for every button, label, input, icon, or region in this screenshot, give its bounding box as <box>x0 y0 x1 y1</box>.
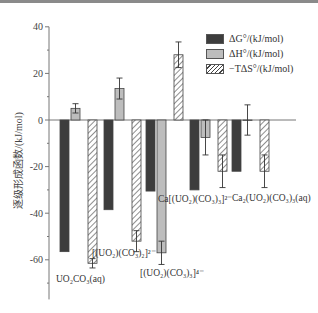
svg-text:-40: -40 <box>30 208 43 219</box>
bar-0-1 <box>104 120 113 210</box>
category-label-0: UO₂CO₃(aq) <box>56 274 105 284</box>
category-label-3: Ca[(UO₂)(CO₃)₃]²⁻ <box>158 193 232 204</box>
svg-text:-60: -60 <box>30 254 43 265</box>
legend-label: ΔG°/(kJ/mol) <box>229 33 283 44</box>
legend-label: ΔH°/(kJ/mol) <box>229 48 283 59</box>
bar-0-3 <box>190 120 199 190</box>
bar-0-0 <box>60 120 69 252</box>
svg-text:-20: -20 <box>30 161 43 172</box>
legend-item-dh: ΔH°/(kJ/mol) <box>206 47 293 60</box>
category-label-1: [(UO₂)(CO₃)₂]²⁻ <box>92 247 156 258</box>
legend-swatch-light <box>206 49 224 59</box>
legend: ΔG°/(kJ/mol) ΔH°/(kJ/mol) −TΔS°/(kJ/mol) <box>206 32 293 77</box>
y-axis-label: 逐级形成函数/(kJ/mol) <box>10 86 25 236</box>
svg-text:20: 20 <box>33 68 43 79</box>
category-label-4: Ca₂(UO₂)(CO₃)₃(aq) <box>232 193 311 203</box>
category-label-2: [(UO₂)(CO₃)₃]⁴⁻ <box>140 267 204 278</box>
legend-item-tds: −TΔS°/(kJ/mol) <box>206 62 293 75</box>
legend-swatch-dark <box>206 34 224 44</box>
legend-label: −TΔS°/(kJ/mol) <box>229 63 293 74</box>
bar-0-2 <box>146 120 155 191</box>
bar-1-2 <box>157 120 166 253</box>
legend-swatch-hatch <box>206 64 224 74</box>
bar-2-1 <box>132 120 141 241</box>
legend-item-dg: ΔG°/(kJ/mol) <box>206 32 293 45</box>
bar-2-0 <box>88 120 97 263</box>
svg-text:40: 40 <box>33 21 43 32</box>
bar-0-4 <box>232 120 241 171</box>
svg-text:0: 0 <box>38 115 43 126</box>
